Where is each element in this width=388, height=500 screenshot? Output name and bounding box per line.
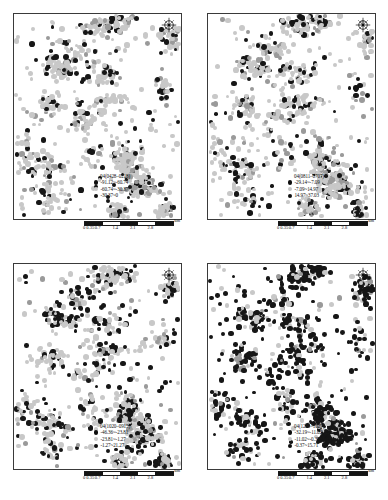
map-point — [78, 345, 81, 348]
map-point — [110, 370, 115, 375]
map-point — [231, 81, 237, 87]
map-point — [215, 64, 221, 70]
map-point — [108, 52, 112, 56]
map-point — [296, 318, 299, 321]
map-point — [67, 295, 71, 299]
map-point — [64, 60, 69, 65]
map-point — [211, 307, 215, 311]
map-point — [175, 317, 180, 322]
map-point — [127, 402, 131, 406]
map-point — [105, 24, 111, 30]
map-point — [256, 424, 261, 429]
map-point — [66, 354, 70, 358]
map-point — [269, 370, 272, 373]
map-point — [66, 436, 69, 439]
map-point — [129, 366, 134, 371]
legend-swatch-dark-icon — [288, 194, 292, 198]
map-point — [236, 461, 241, 466]
map-point — [32, 400, 37, 405]
map-point — [227, 191, 233, 197]
map-point — [347, 73, 352, 78]
map-point — [367, 38, 372, 43]
map-point — [129, 269, 133, 273]
map-point — [171, 340, 176, 345]
map-point — [280, 289, 286, 295]
map-point — [120, 303, 125, 308]
map-point — [146, 110, 152, 116]
map-point — [285, 397, 289, 401]
map-point — [230, 90, 235, 95]
map-point — [318, 15, 321, 18]
map-point — [38, 123, 42, 127]
map-point — [148, 365, 153, 370]
map-point — [54, 79, 59, 84]
map-point — [161, 318, 165, 322]
map-point — [26, 169, 30, 173]
map-point — [20, 195, 24, 199]
map-point — [235, 287, 240, 292]
map-point — [92, 265, 97, 270]
map-point — [25, 110, 29, 114]
map-point — [87, 121, 92, 126]
map-point — [257, 300, 262, 305]
map-point — [83, 362, 87, 366]
map-point — [251, 95, 256, 100]
map-point — [114, 82, 119, 87]
scale-bar-ticks: 00.350.71.42.12.8 — [269, 225, 374, 233]
map-point — [319, 380, 323, 384]
map-point — [123, 21, 127, 25]
map-point — [83, 129, 87, 133]
map-point — [176, 120, 180, 124]
map-point — [314, 63, 318, 67]
map-point — [343, 387, 347, 391]
map-point — [117, 385, 122, 390]
map-point — [105, 35, 110, 40]
map-point — [312, 152, 317, 157]
map-point — [356, 77, 360, 81]
map-point — [143, 34, 148, 39]
map-point — [249, 200, 252, 203]
map-point — [218, 322, 222, 326]
map-point — [315, 269, 318, 272]
map-point — [168, 123, 172, 127]
map-point — [240, 379, 245, 384]
legend: 04(1229–1025) -32.19~-11.02 -11.02~-0.37… — [286, 423, 372, 449]
map-point — [236, 408, 241, 413]
map-point — [241, 368, 247, 374]
map-point — [170, 52, 174, 56]
map-point — [327, 401, 331, 405]
map-point — [285, 409, 289, 413]
map-point — [174, 141, 179, 146]
map-point — [107, 317, 112, 322]
map-point — [225, 164, 228, 167]
map-point — [242, 289, 247, 294]
map-point — [70, 293, 75, 298]
map-point — [334, 118, 338, 122]
map-point — [92, 351, 97, 356]
map-point — [55, 198, 60, 203]
map-point — [171, 205, 175, 209]
map-point — [108, 98, 113, 103]
map-point — [319, 214, 323, 218]
map-point — [332, 146, 335, 149]
map-point — [351, 411, 356, 416]
map-point — [279, 99, 282, 102]
map-point — [210, 160, 214, 164]
map-point — [244, 430, 248, 434]
map-point — [57, 125, 62, 130]
legend-label: -0.37~15.71 — [294, 442, 318, 449]
map-point — [29, 112, 35, 118]
map-point — [61, 210, 66, 215]
map-point — [362, 200, 366, 204]
map-point — [322, 332, 327, 337]
map-point — [280, 92, 285, 97]
map-point — [58, 411, 62, 415]
map-point — [289, 155, 294, 160]
map-point — [29, 155, 34, 160]
map-point — [211, 135, 215, 139]
map-point — [33, 309, 37, 313]
map-point — [133, 279, 137, 283]
map-point — [365, 93, 370, 98]
panel-bottom-right: 04(1229–1025) -32.19~-11.02 -11.02~-0.37… — [194, 250, 388, 500]
map-point — [85, 313, 90, 318]
